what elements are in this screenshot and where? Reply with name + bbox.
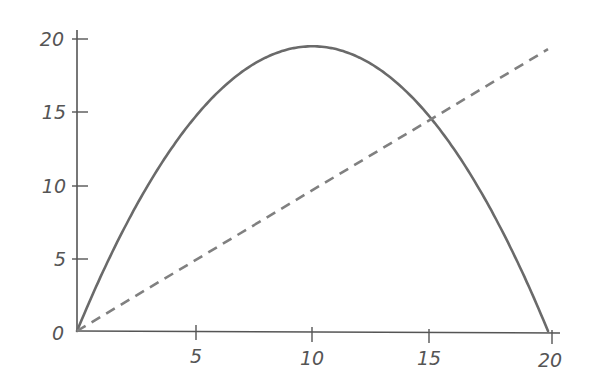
- x-tick-label-10: 10: [300, 347, 324, 369]
- y-axis: 20 15 10 5 0: [40, 28, 88, 344]
- x-tick-label-15: 15: [417, 347, 441, 369]
- x-tick-label-20: 20: [538, 349, 562, 371]
- y-tick-label-5: 5: [54, 248, 66, 270]
- dashed-line: [77, 49, 548, 331]
- y-tick-label-20: 20: [40, 28, 64, 50]
- x-axis: 5 10 15 20: [77, 325, 562, 371]
- y-tick-label-10: 10: [42, 175, 66, 197]
- x-axis-line: [77, 331, 560, 333]
- chart: 20 15 10 5 0 5 10 15 20: [0, 0, 592, 391]
- x-tick-label-5: 5: [190, 345, 202, 367]
- y-tick-label-15: 15: [42, 101, 66, 123]
- series: [77, 46, 548, 331]
- origin-label: 0: [52, 322, 64, 344]
